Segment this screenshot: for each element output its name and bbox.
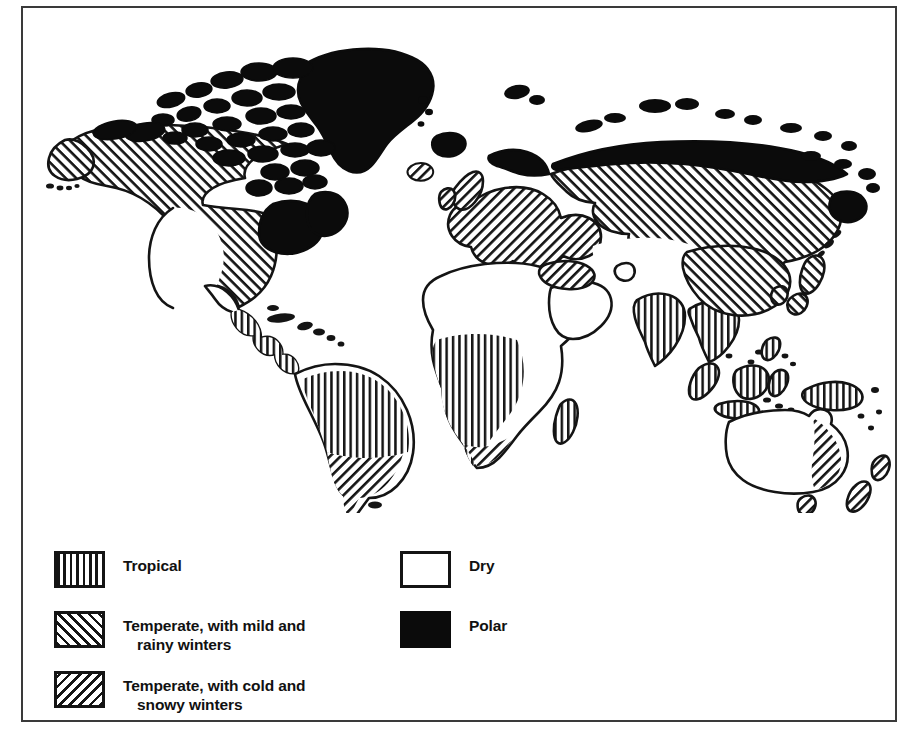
legend-label-temperate-mild: Temperate, with mild andrainy winters [123,616,305,654]
region-tasmania [798,496,816,513]
falkland-islands [368,502,382,509]
climate-map-figure: Tropical Temperate, with mild andrainy w… [0,0,918,746]
legend-swatch-temperate-cold [54,671,105,708]
legend-swatch-temperate-mild [54,611,105,648]
legend-label-polar: Polar [469,616,507,635]
region-kamchatka-polar [829,192,866,222]
world-map [23,8,895,513]
region-iceland [432,133,465,156]
region-asia-minor-temperate [539,261,595,289]
region-japan-south [787,294,807,315]
figure-frame: Tropical Temperate, with mild andrainy w… [21,6,897,722]
map-legend: Tropical Temperate, with mild andrainy w… [23,516,895,720]
legend-swatch-polar [400,611,451,648]
legend-label-temperate-cold: Temperate, with cold andsnowy winters [123,676,305,714]
legend-label-dry: Dry [469,556,495,575]
region-iceland-temperate-patch [407,163,433,181]
borneo [733,366,769,399]
region-baffin-polar [307,192,348,236]
region-caspian-patch [615,263,635,281]
region-ireland [439,188,455,209]
legend-swatch-dry [400,551,451,588]
legend-label-tropical: Tropical [123,556,182,575]
region-korea [771,286,788,304]
new-guinea [802,382,862,410]
legend-swatch-tropical [54,551,105,588]
world-map-svg [23,8,895,513]
